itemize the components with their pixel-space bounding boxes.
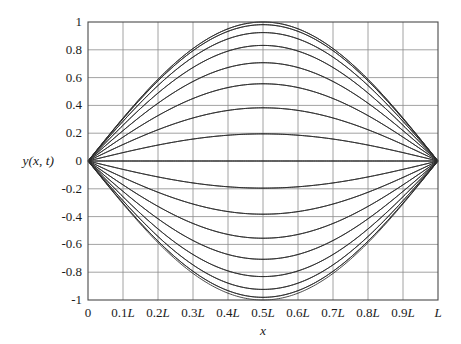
y-tick-label: -0.2 bbox=[61, 182, 82, 195]
standing-wave-figure: 10.80.60.40.20-0.2-0.4-0.6-0.8-1 00.1L0.… bbox=[0, 0, 461, 344]
y-tick-label: -1 bbox=[71, 293, 82, 306]
y-tick-label: 0.4 bbox=[66, 98, 82, 111]
y-tick-label: 0 bbox=[76, 154, 83, 167]
y-tick-label: 0.8 bbox=[66, 43, 82, 56]
y-axis-title: y(x, t) bbox=[23, 153, 54, 169]
y-tick-label: -0.4 bbox=[61, 210, 82, 223]
y-tick-label: 1 bbox=[76, 15, 83, 28]
y-tick-label: 0.2 bbox=[66, 126, 82, 139]
y-tick-label: -0.6 bbox=[61, 237, 82, 250]
y-tick-label: 0.6 bbox=[66, 71, 82, 84]
y-tick-label: -0.8 bbox=[61, 265, 82, 278]
x-axis-title: x bbox=[223, 323, 303, 339]
x-tick-label: L bbox=[408, 306, 461, 319]
